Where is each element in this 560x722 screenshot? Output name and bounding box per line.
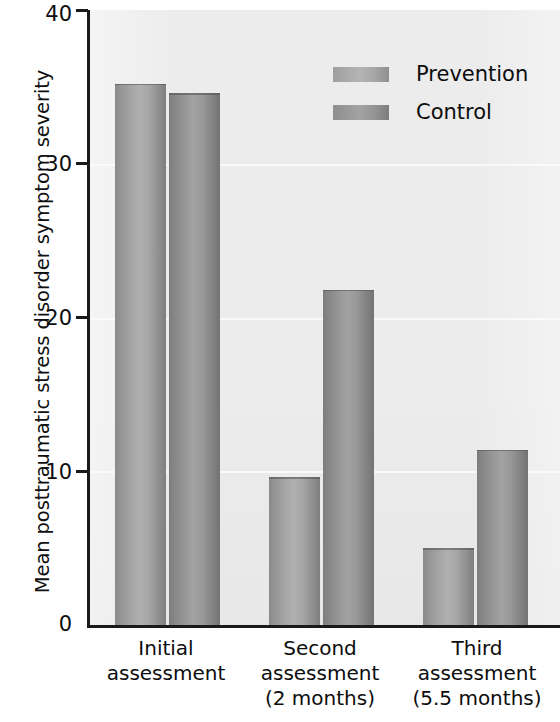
plot-area: Prevention Control — [89, 10, 560, 625]
bar-top-edge — [269, 477, 320, 479]
x-category-line: Third — [394, 636, 560, 661]
bar-control-third — [477, 450, 528, 625]
x-category-label-initial: Initial assessment — [86, 636, 246, 686]
y-tick-label-10: 10 — [0, 460, 72, 484]
bar-fill — [477, 450, 528, 625]
x-category-line: (2 months) — [240, 686, 400, 711]
y-tick-20 — [76, 316, 88, 319]
bar-prevention-second — [269, 477, 320, 625]
bar-chart: Mean posttraumatic stress disorder sympt… — [0, 0, 560, 722]
x-category-label-third: Third assessment (5.5 months) — [394, 636, 560, 711]
bar-top-edge — [169, 93, 220, 95]
x-category-line: assessment — [86, 661, 246, 686]
bar-fill — [169, 93, 220, 625]
x-category-line: assessment — [240, 661, 400, 686]
bar-prevention-initial — [115, 84, 166, 625]
y-tick-10 — [76, 470, 88, 473]
y-tick-label-30: 30 — [0, 152, 72, 176]
y-axis-title: Mean posttraumatic stress disorder sympt… — [31, 22, 54, 642]
bar-top-edge — [477, 450, 528, 452]
x-category-line: Initial — [86, 636, 246, 661]
legend: Prevention Control — [333, 58, 548, 134]
y-tick-label-0: 0 — [0, 612, 72, 636]
bar-control-second — [323, 290, 374, 625]
y-tick-40 — [76, 9, 88, 12]
x-category-line: Second — [240, 636, 400, 661]
y-axis-line — [87, 10, 90, 627]
legend-swatch-control — [333, 105, 389, 120]
legend-label-control: Control — [416, 100, 492, 124]
bar-fill — [423, 548, 474, 625]
legend-item-prevention: Prevention — [333, 58, 548, 90]
legend-item-control: Control — [333, 96, 548, 128]
bar-top-edge — [323, 290, 374, 292]
bar-prevention-third — [423, 548, 474, 625]
y-tick-label-20: 20 — [0, 306, 72, 330]
y-tick-label-40: 40 — [0, 2, 72, 26]
y-tick-30 — [76, 162, 88, 165]
bar-top-edge — [423, 548, 474, 550]
bar-top-edge — [115, 84, 166, 86]
x-category-line: assessment — [394, 661, 560, 686]
bar-fill — [115, 84, 166, 625]
bar-control-initial — [169, 93, 220, 625]
x-category-label-second: Second assessment (2 months) — [240, 636, 400, 711]
x-category-line: (5.5 months) — [394, 686, 560, 711]
x-axis-line — [87, 625, 560, 628]
bar-fill — [323, 290, 374, 625]
legend-swatch-prevention — [333, 67, 389, 82]
bar-fill — [269, 477, 320, 625]
legend-label-prevention: Prevention — [416, 62, 528, 86]
